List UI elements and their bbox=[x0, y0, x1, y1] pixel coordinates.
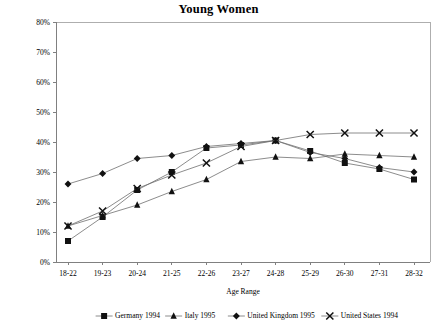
data-point-marker bbox=[99, 170, 106, 177]
x-axis-tick-label: 25-29 bbox=[301, 269, 319, 278]
data-point-marker bbox=[411, 153, 417, 159]
data-point-marker bbox=[411, 169, 418, 176]
series-line bbox=[68, 154, 414, 226]
y-axis-tick-label: 10% bbox=[36, 228, 50, 237]
y-axis-tick-label: 0% bbox=[40, 258, 50, 267]
series-italy-1995 bbox=[65, 150, 417, 228]
chart-container: Young Women 0%10%20%30%40%50%60%70%80%18… bbox=[0, 0, 437, 329]
legend-item[interactable]: United Kingdom 1995 bbox=[228, 311, 315, 320]
legend-label: Italy 1995 bbox=[185, 311, 216, 320]
data-point-marker bbox=[376, 152, 382, 158]
y-axis-tick-label: 60% bbox=[36, 78, 50, 87]
data-point-marker bbox=[411, 177, 417, 183]
chart-legend: Germany 1994Italy 1995United Kingdom 199… bbox=[96, 311, 399, 320]
y-axis-tick-label: 70% bbox=[36, 48, 50, 57]
y-axis-tick-label: 50% bbox=[36, 108, 50, 117]
x-axis-title: Age Range bbox=[226, 287, 260, 296]
data-point-marker bbox=[65, 181, 72, 188]
x-axis-tick-label: 20-24 bbox=[128, 269, 146, 278]
line-chart-plot: 0%10%20%30%40%50%60%70%80%18-2219-2320-2… bbox=[0, 0, 437, 329]
y-axis-tick-label: 30% bbox=[36, 168, 50, 177]
x-axis-tick-label: 26-30 bbox=[336, 269, 354, 278]
x-axis-tick-label: 28-32 bbox=[405, 269, 423, 278]
legend-item[interactable]: Italy 1995 bbox=[165, 311, 215, 320]
legend-item[interactable]: United States 1994 bbox=[321, 311, 398, 320]
data-point-marker bbox=[101, 313, 107, 319]
x-axis-tick-label: 24-28 bbox=[267, 269, 285, 278]
x-axis-tick-label: 22-26 bbox=[198, 269, 216, 278]
data-point-marker bbox=[203, 176, 209, 182]
data-point-marker bbox=[65, 238, 71, 244]
data-point-marker bbox=[168, 152, 175, 159]
data-point-marker bbox=[171, 312, 177, 318]
series-line bbox=[68, 141, 414, 242]
legend-label: United Kingdom 1995 bbox=[247, 311, 315, 320]
data-point-marker bbox=[203, 159, 210, 166]
y-axis-tick-label: 40% bbox=[36, 138, 50, 147]
data-point-marker bbox=[134, 155, 141, 162]
series-germany-1994 bbox=[65, 138, 417, 245]
legend-item[interactable]: Germany 1994 bbox=[96, 311, 161, 320]
data-point-marker bbox=[233, 313, 240, 320]
y-axis-tick-label: 20% bbox=[36, 198, 50, 207]
legend-label: United States 1994 bbox=[341, 311, 398, 320]
data-point-marker bbox=[272, 153, 278, 159]
x-axis-tick-label: 18-22 bbox=[59, 269, 77, 278]
legend-label: Germany 1994 bbox=[115, 311, 160, 320]
y-axis-tick-label: 80% bbox=[36, 18, 50, 27]
x-axis-tick-label: 21-25 bbox=[163, 269, 181, 278]
x-axis-tick-label: 27-31 bbox=[371, 269, 389, 278]
x-axis-tick-label: 23-27 bbox=[232, 269, 250, 278]
x-axis-tick-label: 19-23 bbox=[94, 269, 112, 278]
